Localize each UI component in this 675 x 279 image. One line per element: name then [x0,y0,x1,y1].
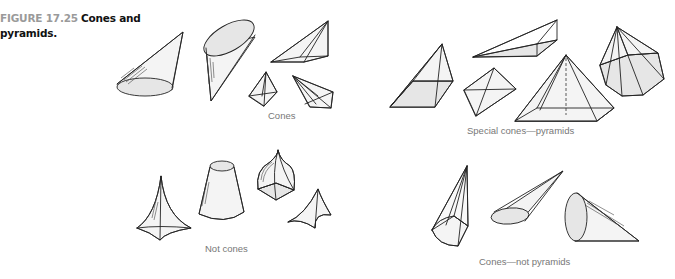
pyramids-group [390,20,664,121]
mixed-base-cone-shape [432,166,468,246]
group-label-pyramids: Special cones—pyramids [467,125,574,136]
square-pyramid-leaning-shape [390,44,453,107]
cones-not-pyramids-group [432,166,639,246]
octagonal-pyramid-shape [600,27,664,96]
oblique-cone-pointing-right-shape [490,171,563,226]
tilted-quadrilateral-pyramid-shape [293,76,333,108]
curved-pyramid-shape [137,176,191,240]
not-cones-group [137,150,331,240]
oblique-circular-cone-shape [117,32,183,96]
long-triangular-pyramid-shape [473,20,557,57]
onion-dome-box-shape [258,150,295,200]
diamond-square-pyramid-shape [464,68,516,116]
inverted-elliptical-cone-shape [198,13,259,101]
curved-tetrahedron-shape [288,189,331,228]
frustum-shape [199,161,244,220]
triangular-pyramid-shape [271,21,328,62]
group-label-not-cones: Not cones [205,243,248,254]
figure-illustration [0,0,675,279]
small-square-pyramid-shape [249,72,277,106]
cones-group [117,13,333,108]
group-label-cones: Cones [268,110,295,121]
group-label-cones-not-pyramids: Cones—not pyramids [479,256,570,267]
large-square-pyramid-shape [515,55,614,121]
horizontal-cone-shape [565,193,639,241]
